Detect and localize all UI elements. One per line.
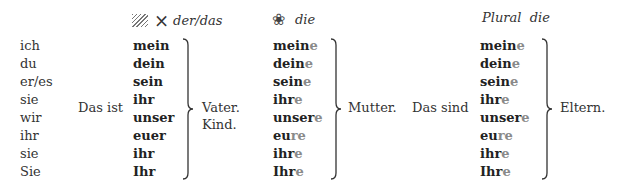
- possessive-form: seine: [273, 73, 323, 91]
- possessive-form: unsere: [480, 109, 530, 127]
- noun-vater: Vater.: [202, 100, 240, 115]
- hatch-icon: [132, 14, 148, 27]
- possessive-form: ihre: [480, 91, 530, 109]
- noun-mutter: Mutter.: [348, 100, 397, 115]
- cross-icon: ×: [154, 10, 169, 31]
- possessive-form: unser: [133, 109, 174, 127]
- noun-eltern: Eltern.: [560, 100, 605, 115]
- pronoun: wir: [20, 109, 53, 127]
- possessive-form: deine: [273, 55, 323, 73]
- header-fem: ❀die: [272, 10, 315, 29]
- fem-column: meine deine seine ihre unsere eure ihre …: [273, 37, 323, 181]
- possessive-form: deine: [480, 55, 530, 73]
- plural-column: meine deine seine ihre unsere eure ihre …: [480, 37, 530, 181]
- possessive-form: eure: [273, 127, 323, 145]
- intro-das-ist: Das ist: [78, 100, 123, 115]
- possessive-form: dein: [133, 55, 174, 73]
- pronoun: er/es: [20, 73, 53, 91]
- noun-kind: Kind.: [202, 117, 237, 132]
- possessive-form: Ihre: [273, 163, 323, 181]
- possessive-form: ihre: [480, 145, 530, 163]
- flower-icon: ❀: [272, 10, 285, 29]
- possessive-form: meine: [273, 37, 323, 55]
- possessive-form: ihr: [133, 91, 174, 109]
- pronoun: sie: [20, 145, 53, 163]
- possessive-form: seine: [480, 73, 530, 91]
- possessive-form: mein: [133, 37, 174, 55]
- pronoun: Sie: [20, 163, 53, 181]
- possessive-form: sein: [133, 73, 174, 91]
- header-masc-neut: ×der/das: [132, 10, 222, 31]
- pronoun: ich: [20, 37, 53, 55]
- pronoun: sie: [20, 91, 53, 109]
- intro-das-sind: Das sind: [412, 100, 469, 115]
- header-die: die: [295, 12, 315, 27]
- right-brace-icon: [541, 37, 553, 181]
- masc-neut-column: mein dein sein ihr unser euer ihr Ihr: [133, 37, 174, 181]
- possessive-form: Ihr: [133, 163, 174, 181]
- possessive-form: meine: [480, 37, 530, 55]
- possessive-form: eure: [480, 127, 530, 145]
- possessive-form: euer: [133, 127, 174, 145]
- header-der-das: der/das: [173, 13, 222, 28]
- possessive-form: unsere: [273, 109, 323, 127]
- possessive-form: Ihre: [480, 163, 530, 181]
- right-brace-icon: [182, 37, 194, 181]
- possessive-form: ihr: [133, 145, 174, 163]
- possessive-form: ihre: [273, 145, 323, 163]
- pronoun-column: ich du er/es sie wir ihr sie Sie: [20, 37, 53, 181]
- pronoun: du: [20, 55, 53, 73]
- right-brace-icon: [330, 37, 342, 181]
- possessive-form: ihre: [273, 91, 323, 109]
- header-plural: Plural die: [482, 10, 550, 25]
- pronoun: ihr: [20, 127, 53, 145]
